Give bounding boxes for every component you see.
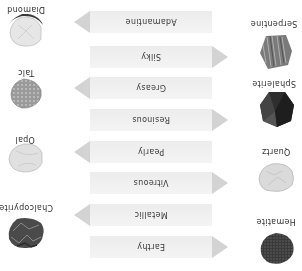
opal-rock-icon <box>6 141 46 175</box>
band-silky: Silky <box>90 46 212 68</box>
band-greasy: Greasy <box>90 77 212 99</box>
arrow-left-icon <box>212 172 228 194</box>
mineral-label-talc: Talc <box>18 68 34 77</box>
quartz-rock-icon <box>256 161 296 195</box>
arrow-left-icon <box>212 109 228 131</box>
band-label: Earthy <box>137 243 165 252</box>
serpentine-rock-icon <box>258 33 294 71</box>
diamond-rock-icon <box>6 13 46 49</box>
mineral-label-serpentine: Serpentine <box>251 19 298 28</box>
band-label: Greasy <box>136 84 166 93</box>
band-adamantine: Adamantine <box>90 11 212 33</box>
mineral-label-hematite: Hematite <box>256 217 295 226</box>
arrow-right-icon <box>74 77 90 99</box>
luster-diagram: Earthy Metallic Vitreous Pearly Resinous… <box>0 0 302 271</box>
arrow-right-icon <box>74 204 90 226</box>
band-vitreous: Vitreous <box>90 172 212 194</box>
arrow-right-icon <box>74 11 90 33</box>
band-label: Resinous <box>132 116 170 125</box>
band-label: Vitreous <box>133 179 168 188</box>
arrow-right-icon <box>74 141 90 163</box>
arrow-left-icon <box>212 46 228 68</box>
arrow-left-icon <box>212 236 228 258</box>
band-label: Silky <box>141 53 161 62</box>
band-resinous: Resinous <box>90 109 212 131</box>
band-metallic: Metallic <box>90 204 212 226</box>
mineral-label-opal: Opal <box>15 135 35 144</box>
hematite-rock-icon <box>258 232 296 266</box>
chalcopyrite-rock-icon <box>5 215 47 251</box>
band-earthy: Earthy <box>90 236 212 258</box>
mineral-label-quartz: Quartz <box>262 147 291 156</box>
mineral-label-diamond: Diamond <box>7 5 45 14</box>
talc-rock-icon <box>8 77 44 111</box>
band-label: Metallic <box>134 211 167 220</box>
mineral-label-sphalerite: Sphalerite <box>252 79 296 88</box>
band-pearly: Pearly <box>90 141 212 163</box>
band-label: Pearly <box>138 148 164 157</box>
sphalerite-rock-icon <box>257 89 297 129</box>
band-label: Adamantine <box>125 18 176 27</box>
mineral-label-chalcopyrite: Chalcopyrite <box>0 203 53 212</box>
